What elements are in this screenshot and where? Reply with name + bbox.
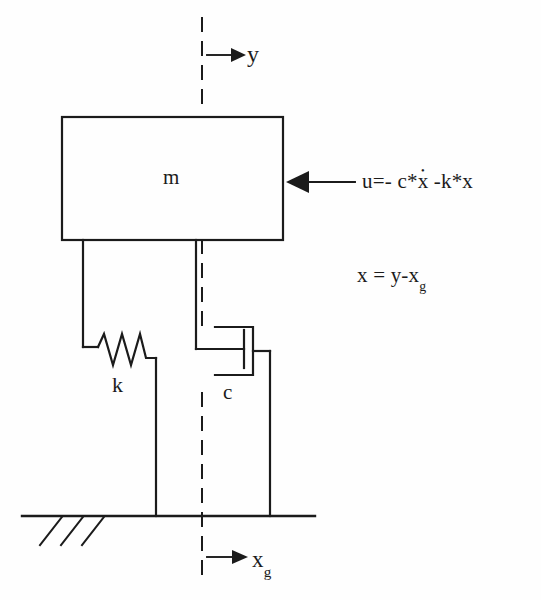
relative-displacement-equation: x = y-xg xyxy=(357,265,426,290)
damper-cylinder xyxy=(215,327,253,375)
control-force-equation: u=- c*x -k*x xyxy=(362,171,473,192)
ground-displacement-label: xg xyxy=(252,548,272,575)
displacement-y-label: y xyxy=(247,42,259,66)
arrow-y-head xyxy=(231,48,246,62)
control-force-lhs: u= xyxy=(362,169,385,193)
ground-hatch-2 xyxy=(61,517,83,545)
arrow-force-head xyxy=(286,171,309,193)
relative-displacement-rhs: y-x xyxy=(391,263,420,287)
ground-hatch-1 xyxy=(40,517,62,545)
ground-displacement-base: x xyxy=(252,547,264,572)
spring-coil xyxy=(98,334,156,365)
mass-spring-damper-diagram: m y k c xg u=- c*x -k*x x = y-xg xyxy=(0,0,541,600)
ground-displacement-subscript: g xyxy=(264,563,272,580)
spring-constant-label: k xyxy=(112,374,123,396)
relative-displacement-subscript: g xyxy=(419,279,426,294)
control-force-term1-prefix: - c* xyxy=(385,169,418,193)
arrow-xg-head xyxy=(232,550,248,564)
mass-label: m xyxy=(163,167,180,188)
control-force-term2: -k*x xyxy=(428,169,473,193)
ground-hatch-3 xyxy=(82,517,104,545)
control-force-xdot: x xyxy=(418,171,429,192)
schematic-drawing xyxy=(0,0,541,600)
relative-displacement-lhs: x = xyxy=(357,263,391,287)
damping-constant-label: c xyxy=(223,382,233,403)
